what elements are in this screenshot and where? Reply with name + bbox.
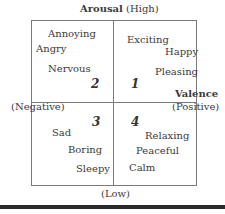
word-sad: Sad <box>52 127 71 139</box>
valence-negative: (Negative) <box>11 101 65 113</box>
word-happy: Happy <box>165 46 198 58</box>
quadrant-4-number: 4 <box>131 116 139 128</box>
box-bottom-border <box>31 185 197 186</box>
arousal-title: Arousal <box>80 3 123 14</box>
word-relaxing: Relaxing <box>145 130 189 142</box>
quadrant-1-number: 1 <box>131 78 139 90</box>
vertical-axis <box>113 20 114 186</box>
word-pleasing: Pleasing <box>155 66 198 78</box>
word-sleepy: Sleepy <box>76 163 110 175</box>
word-calm: Calm <box>129 162 155 174</box>
quadrant-3-number: 3 <box>92 116 100 128</box>
box-top-border <box>31 20 197 21</box>
arousal-axis-label: Arousal (High) <box>80 3 159 15</box>
word-boring: Boring <box>68 144 102 156</box>
quadrant-2-number: 2 <box>91 78 99 90</box>
arousal-high: (High) <box>126 3 159 14</box>
word-peaceful: Peaceful <box>136 145 179 157</box>
word-angry: Angry <box>36 43 67 55</box>
bottom-rule <box>0 205 225 209</box>
word-annoying: Annoying <box>48 28 96 40</box>
arousal-low: (Low) <box>101 188 130 200</box>
valence-axis-label: Valence <box>175 88 218 100</box>
valence-positive: (Positive) <box>172 101 219 113</box>
word-exciting: Exciting <box>127 34 169 46</box>
word-nervous: Nervous <box>48 63 91 75</box>
